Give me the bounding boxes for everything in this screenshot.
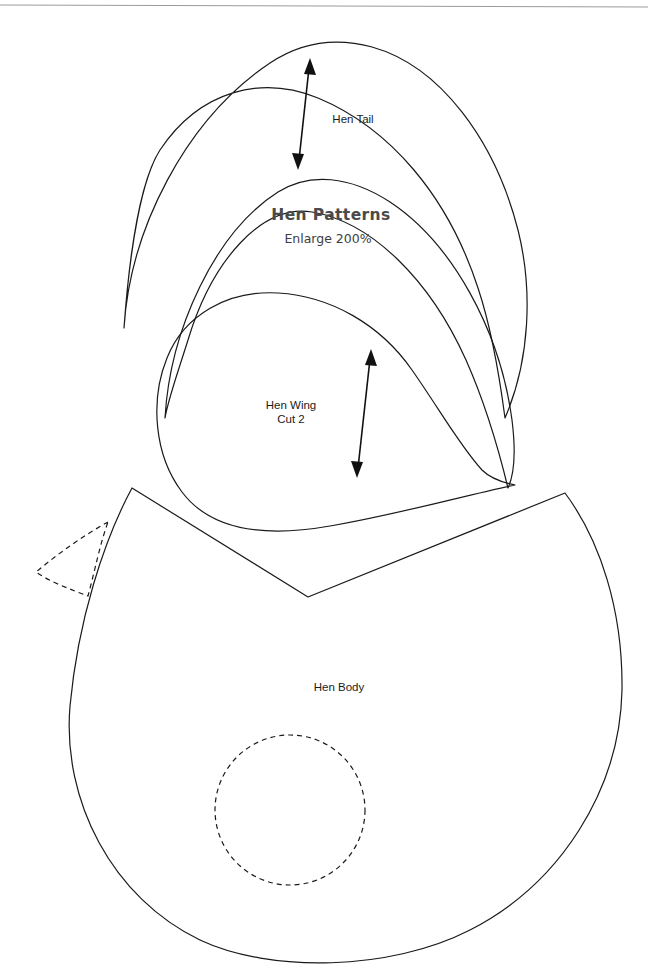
hen-wing-label: Hen Wing — [266, 399, 317, 411]
wing-grain-arrow — [351, 349, 377, 478]
hen-body-outline — [69, 488, 622, 963]
hen-beak-dashed-outline — [36, 522, 108, 596]
pattern-sheet: Hen Tail Hen Patterns Enlarge 200% Hen W… — [0, 0, 648, 976]
page-title: Hen Patterns — [271, 206, 390, 224]
pattern-drawing: Hen Tail Hen Patterns Enlarge 200% Hen W… — [0, 0, 648, 976]
hen-wing-cut-label: Cut 2 — [277, 413, 305, 425]
body-placement-circle — [215, 735, 365, 885]
hen-wing-outline — [157, 293, 515, 531]
hen-body-label: Hen Body — [314, 681, 365, 693]
page-subtitle: Enlarge 200% — [284, 231, 371, 246]
hen-tail-label: Hen Tail — [332, 113, 373, 125]
top-rule — [0, 5, 648, 7]
hen-patterns-arc-outline — [165, 179, 514, 488]
tail-grain-arrow — [292, 58, 316, 170]
